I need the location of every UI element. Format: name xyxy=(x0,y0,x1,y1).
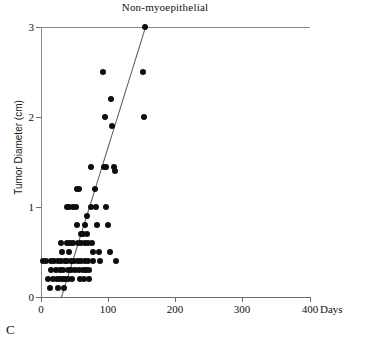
data-point xyxy=(61,285,67,291)
data-point xyxy=(103,204,109,210)
data-point xyxy=(108,96,114,102)
data-point xyxy=(102,114,108,120)
data-point xyxy=(141,114,147,120)
data-point xyxy=(76,186,82,192)
data-point xyxy=(92,186,98,192)
data-point xyxy=(90,258,96,264)
data-point xyxy=(96,249,102,255)
data-point xyxy=(142,24,148,30)
data-point xyxy=(105,222,111,228)
data-point xyxy=(113,258,119,264)
data-point xyxy=(103,164,109,170)
data-point xyxy=(82,222,88,228)
data-point xyxy=(74,222,80,228)
trend-line xyxy=(61,27,146,297)
data-point xyxy=(84,213,90,219)
data-point xyxy=(89,240,95,246)
data-point xyxy=(86,276,92,282)
data-point xyxy=(73,204,79,210)
data-point xyxy=(69,276,75,282)
data-point xyxy=(47,285,53,291)
data-point xyxy=(140,69,146,75)
data-point xyxy=(88,164,94,170)
data-point xyxy=(97,258,103,264)
data-point xyxy=(112,168,118,174)
data-point xyxy=(107,249,113,255)
panel-letter: C xyxy=(6,322,15,338)
data-point xyxy=(66,249,72,255)
data-point xyxy=(84,231,90,237)
data-point xyxy=(90,249,96,255)
data-point xyxy=(86,267,92,273)
data-point xyxy=(94,222,100,228)
data-point xyxy=(59,249,65,255)
data-point xyxy=(100,69,106,75)
data-point xyxy=(93,204,99,210)
scatter-series xyxy=(0,0,367,355)
figure-panel-c: Non-myoepithelial 3 2 1 0 0 100 200 300 … xyxy=(0,0,367,355)
